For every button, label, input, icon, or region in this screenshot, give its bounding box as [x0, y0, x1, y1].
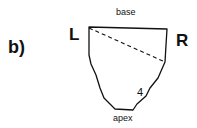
base-label: base — [116, 8, 136, 17]
number-label: 4 — [137, 87, 143, 98]
dashed-diagonal — [89, 28, 165, 62]
panel-label: b) — [8, 38, 25, 56]
leaf-outline — [89, 27, 167, 110]
leaf-outline-diagram — [0, 0, 197, 128]
apex-label: apex — [113, 114, 133, 123]
left-corner-label: L — [69, 26, 79, 43]
right-corner-label: R — [176, 32, 188, 49]
